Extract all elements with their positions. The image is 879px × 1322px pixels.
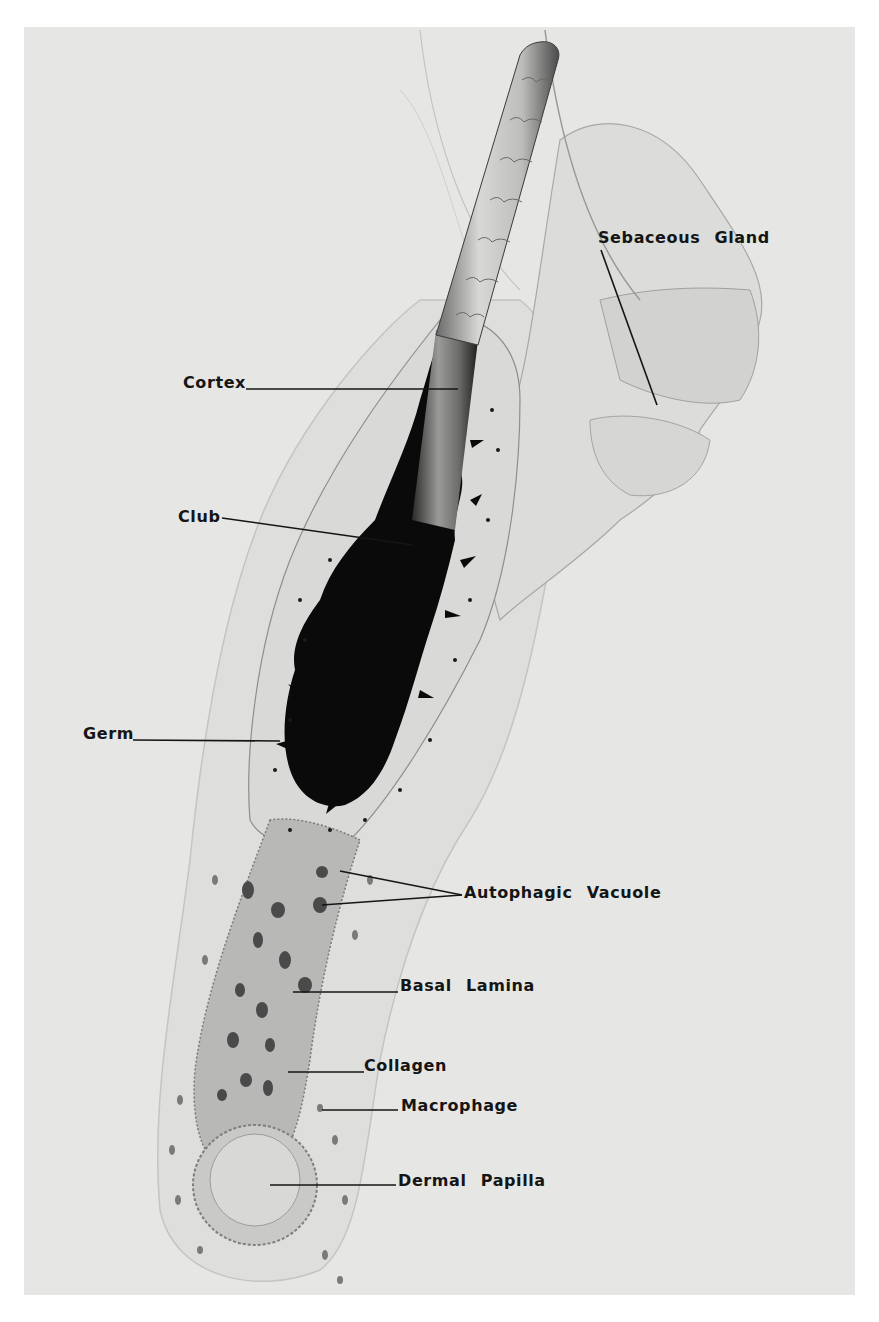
label-cortex: Cortex	[183, 374, 246, 392]
label-club: Club	[178, 508, 220, 526]
label-basal-lamina: Basal Lamina	[400, 977, 535, 995]
label-dermal-papilla: Dermal Papilla	[398, 1172, 546, 1190]
label-germ: Germ	[83, 725, 134, 743]
label-collagen: Collagen	[364, 1057, 447, 1075]
label-macrophage: Macrophage	[401, 1097, 518, 1115]
label-autophagic-vacuole: Autophagic Vacuole	[464, 884, 661, 902]
label-sebaceous-gland: Sebaceous Gland	[598, 229, 770, 247]
